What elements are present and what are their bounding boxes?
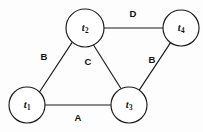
edge-label-t2-t3: C	[85, 57, 92, 67]
edge-t2-t3	[94, 45, 121, 88]
edge-label-t2-t4: D	[130, 9, 137, 19]
node-label-t4: t4	[178, 23, 185, 34]
node-subscript-t2: 2	[85, 27, 89, 35]
edge-label-t3-t4: B	[149, 55, 156, 65]
node-label-t1: t1	[24, 100, 31, 111]
graph-diagram: t1 t2 t3 t4 B C D B A	[0, 0, 203, 132]
edge-t3-t4	[139, 43, 170, 91]
graph-canvas	[0, 0, 203, 132]
edge-label-t1-t3: A	[75, 113, 82, 123]
node-label-t3: t3	[126, 100, 133, 111]
node-group	[9, 9, 199, 123]
node-subscript-t4: 4	[181, 27, 185, 35]
edge-t1-t2	[40, 42, 73, 92]
node-subscript-t1: 1	[27, 104, 31, 112]
edge-label-t1-t2: B	[41, 52, 48, 62]
node-subscript-t3: 3	[129, 104, 133, 112]
node-label-t2: t2	[82, 23, 89, 34]
edge-group	[40, 28, 171, 105]
